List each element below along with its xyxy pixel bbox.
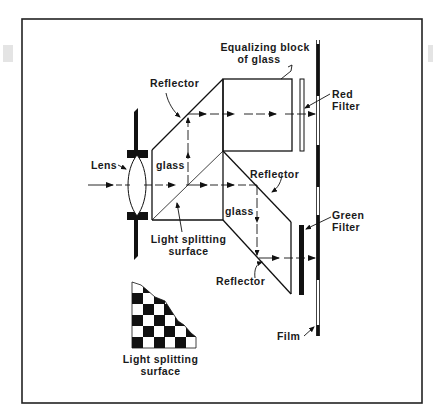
label-glass-upper: glass	[156, 159, 185, 171]
label-light-splitting-line2: surface	[146, 245, 231, 257]
label-green-line1: Green	[332, 209, 364, 221]
label-red-line1: Red	[332, 88, 360, 100]
inset-caption-line1: Light splitting	[118, 353, 203, 365]
leader-light-splitting	[177, 203, 182, 232]
label-lens: Lens	[91, 159, 117, 171]
label-red-filter: Red Filter	[332, 88, 360, 112]
film	[317, 40, 320, 336]
label-light-splitting: Light splitting surface	[146, 233, 231, 257]
inset-caption: Light splitting surface	[118, 353, 203, 377]
label-glass-lower: glass	[225, 205, 254, 217]
label-equalizing-block: Equalizing block of glass	[210, 41, 320, 65]
label-equalizing-line1: Equalizing block	[210, 41, 320, 53]
leader-film	[304, 327, 314, 336]
red-filter	[300, 79, 304, 151]
label-equalizing-line2: of glass	[198, 53, 320, 65]
label-reflector-mid: Reflector	[250, 168, 299, 180]
label-green-filter: Green Filter	[332, 209, 364, 233]
label-film: Film	[277, 330, 300, 342]
upper-prism	[152, 79, 223, 220]
leader-red-filter	[305, 94, 330, 108]
label-red-line2: Filter	[332, 100, 360, 112]
equalizing-block	[223, 79, 292, 151]
label-green-line2: Filter	[332, 221, 364, 233]
checkerboard-inset	[132, 282, 197, 348]
leader-lens	[118, 165, 126, 169]
label-light-splitting-line1: Light splitting	[146, 233, 231, 245]
upper-reflector-surface	[152, 79, 223, 150]
label-reflector-bottom: Reflector	[216, 275, 265, 287]
leader-reflector-top	[166, 93, 180, 117]
label-reflector-top: Reflector	[150, 77, 199, 89]
inset-caption-line2: surface	[118, 365, 203, 377]
leader-equalizing	[281, 65, 292, 79]
lens	[128, 155, 146, 216]
green-filter	[299, 225, 304, 295]
